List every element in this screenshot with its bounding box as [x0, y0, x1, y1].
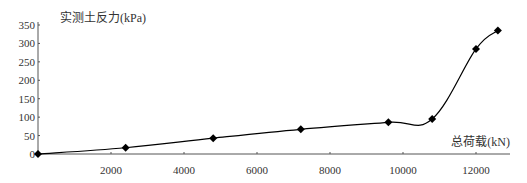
chart-container: 20004000600080001000012000 0501001502002… — [0, 0, 527, 183]
x-axis-title: 总荷载(kN) — [451, 135, 510, 149]
x-tick-label: 4000 — [173, 164, 196, 176]
data-markers — [34, 27, 502, 158]
y-tick-label: 300 — [19, 37, 36, 49]
y-tick-label: 50 — [24, 130, 36, 142]
x-tick-label: 10000 — [389, 164, 417, 176]
y-ticks: 050100150200250300350 — [19, 19, 41, 160]
y-tick-label: 150 — [19, 93, 36, 105]
x-tick-label: 8000 — [319, 164, 342, 176]
x-tick-label: 2000 — [100, 164, 123, 176]
diamond-marker-icon — [494, 27, 502, 35]
line-chart: 20004000600080001000012000 0501001502002… — [0, 0, 527, 183]
y-tick-label: 250 — [19, 56, 36, 68]
x-tick-label: 6000 — [246, 164, 269, 176]
y-axis-title: 实测土反力(kPa) — [60, 10, 146, 25]
x-tick-label: 12000 — [462, 164, 490, 176]
diamond-marker-icon — [297, 125, 305, 133]
diamond-marker-icon — [384, 118, 392, 126]
axes — [38, 22, 510, 154]
diamond-marker-icon — [122, 144, 130, 152]
series-line — [38, 31, 498, 154]
diamond-marker-icon — [209, 134, 217, 142]
y-tick-label: 100 — [19, 111, 36, 123]
x-ticks: 20004000600080001000012000 — [100, 152, 490, 176]
diamond-marker-icon — [34, 150, 42, 158]
y-tick-label: 200 — [19, 74, 36, 86]
y-tick-label: 350 — [19, 19, 36, 31]
